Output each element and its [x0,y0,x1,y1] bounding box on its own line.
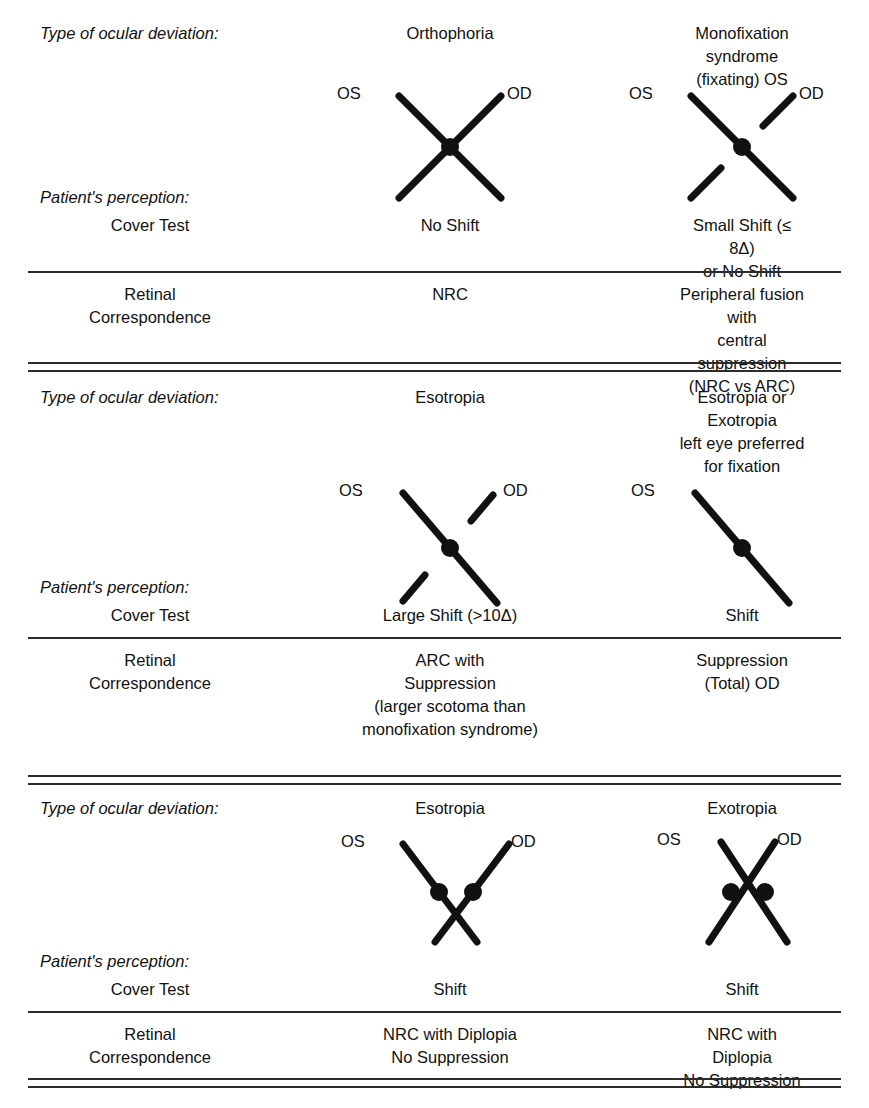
table-bottom-divider [28,1078,841,1088]
section-rule-3a [28,1011,841,1013]
retinal-correspondence-suppression-od: Suppression (Total) OD [696,649,788,695]
eye-label-od: OD [777,830,802,849]
cover-test-orthophoria: No Shift [421,214,480,237]
row-label-retinal-1: RetinalCorrespondence [89,283,211,329]
row-label-retinal-2: RetinalCorrespondence [89,649,211,695]
diagram-exotropia-diplopia: OS OD [673,838,823,948]
section-divider-1 [28,362,841,372]
eye-label-os: OS [629,84,653,103]
row-label-deviation-1: Type of ocular deviation: [40,22,219,45]
row-label-perception-2: Patient's perception: [40,576,189,599]
row-label-perception-1: Patient's perception: [40,186,189,209]
eye-label-od: OD [799,84,824,103]
retinal-line-1: Retinal [124,651,175,669]
retinal-correspondence-esotropia-arc: ARC with Suppression (larger scotoma tha… [362,649,538,741]
row-label-deviation-2: Type of ocular deviation: [40,386,219,409]
diagram-suppression-total-od: OS [657,487,827,609]
deviation-exotropia-diplopia: Exotropia [707,797,777,820]
retinal-line-2: Correspondence [89,674,211,692]
diagram-esotropia-arc: OS OD [365,487,535,609]
diagram-monofixation: OS OD [657,88,827,206]
cover-test-esotropia-arc: Large Shift (>10Δ) [383,604,517,627]
deviation-orthophoria: Orthophoria [406,22,493,45]
retinal-correspondence-esotropia-diplopia: NRC with Diplopia No Suppression [383,1023,517,1069]
row-label-cover-test-1: Cover Test [111,214,190,237]
row-label-retinal-3: RetinalCorrespondence [89,1023,211,1069]
retinal-line-1: Retinal [124,285,175,303]
eye-label-od: OD [507,84,532,103]
cover-test-suppression-od: Shift [725,604,758,627]
retinal-line-1: Retinal [124,1025,175,1043]
eye-label-od: OD [511,832,536,851]
deviation-suppression-od: Esotropia or Exotropia left eye preferre… [679,386,806,478]
cover-test-exotropia-diplopia: Shift [725,978,758,1001]
row-label-perception-3: Patient's perception: [40,950,189,973]
figure-page: Type of ocular deviation: Orthophoria Mo… [0,0,869,1108]
retinal-correspondence-orthophoria: NRC [432,283,468,306]
eye-label-os: OS [631,481,655,500]
retinal-line-2: Correspondence [89,1048,211,1066]
deviation-esotropia-arc: Esotropia [415,386,485,409]
eye-label-os: OS [657,830,681,849]
eye-label-os: OS [339,481,363,500]
retinal-line-2: Correspondence [89,308,211,326]
eye-label-os: OS [341,832,365,851]
diagram-orthophoria: OS OD [365,88,535,206]
retinal-correspondence-monofixation: Peripheral fusion with central suppressi… [679,283,806,398]
section-rule-1a [28,271,841,273]
row-label-cover-test-2: Cover Test [111,604,190,627]
deviation-esotropia-diplopia: Esotropia [415,797,485,820]
eye-label-os: OS [337,84,361,103]
section-divider-2 [28,775,841,785]
deviation-monofixation: Monofixation syndrome (fixating) OS [679,22,806,91]
row-label-deviation-3: Type of ocular deviation: [40,797,219,820]
eye-label-od: OD [503,481,528,500]
section-rule-2a [28,637,841,639]
cover-test-esotropia-diplopia: Shift [433,978,466,1001]
row-label-cover-test-3: Cover Test [111,978,190,1001]
diagram-esotropia-diplopia: OS OD [381,838,531,948]
